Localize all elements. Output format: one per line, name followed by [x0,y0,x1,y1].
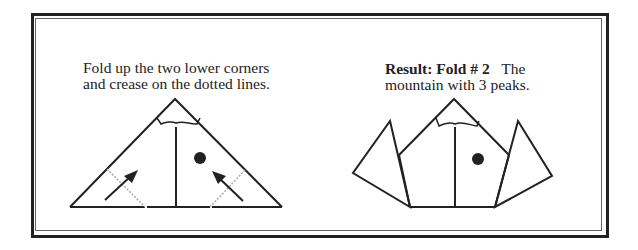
dot-marker [472,153,484,165]
arrow-right [218,177,243,201]
mountain-three-peaks [353,99,552,207]
triangle-before-fold [70,99,282,207]
right-peak [495,121,552,207]
fold-diagrams [0,0,638,250]
dot-marker [194,152,206,164]
dotted-fold-line-left [107,169,145,207]
